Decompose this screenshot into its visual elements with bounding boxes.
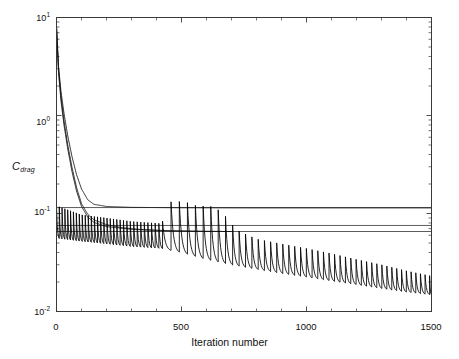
reference-lines — [57, 208, 432, 232]
minor-tick-marks — [57, 18, 432, 312]
chart-figure: Cdrag Iteration number 101 100 10-1 10-2… — [0, 0, 459, 359]
smooth-decay-curves — [57, 27, 432, 232]
smooth-decay-a — [57, 27, 432, 208]
plot-frame — [57, 18, 432, 312]
plot-canvas — [0, 0, 459, 359]
major-tick-marks — [57, 18, 432, 312]
smooth-decay-b — [57, 27, 232, 232]
convergence-sawtooth-curve — [57, 202, 432, 295]
smooth-decay-c — [57, 27, 232, 232]
